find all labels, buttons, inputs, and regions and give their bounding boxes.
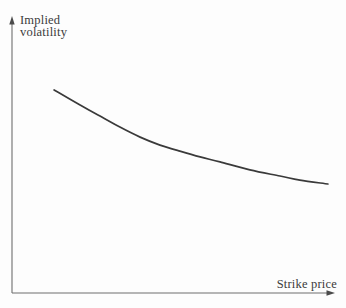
up-arrow-icon [9,16,14,25]
y-axis-label-line2: volatility [20,26,67,38]
right-arrow-icon [327,290,336,296]
volatility-skew-figure: Implied volatility Strike price [0,0,346,308]
implied-volatility-curve [54,90,328,184]
y-axis-label: Implied volatility [20,14,67,38]
chart-canvas [0,0,346,308]
x-axis-label: Strike price [277,278,337,290]
